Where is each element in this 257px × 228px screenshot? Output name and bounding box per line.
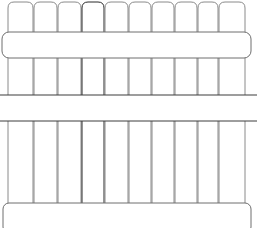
fence-drawing	[0, 0, 257, 228]
fence-rail	[3, 203, 251, 228]
picket-fence-scene: Picket Fence Line drawing of a white pic…	[0, 0, 257, 228]
fence-rail	[0, 95, 257, 121]
fence-rail	[2, 32, 251, 58]
